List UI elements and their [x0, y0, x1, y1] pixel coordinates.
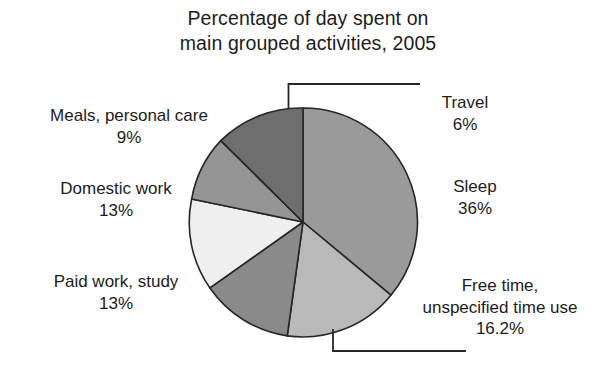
slice-label-paid-work-name: Paid work, study: [20, 271, 212, 293]
slice-label-domestic-work: Domestic work 13%: [26, 178, 206, 221]
slice-label-domestic-work-value: 13%: [26, 200, 206, 222]
slice-label-free-time-value: 16.2%: [388, 318, 612, 340]
slice-label-sleep-value: 36%: [432, 198, 518, 220]
slice-label-paid-work: Paid work, study 13%: [20, 271, 212, 314]
slice-label-free-time: Free time, unspecified time use 16.2%: [388, 275, 612, 340]
slice-label-meals-value: 9%: [24, 127, 234, 149]
slice-label-free-time-name-line-2: unspecified time use: [388, 297, 612, 319]
leader-line-travel: [289, 84, 421, 108]
slice-label-travel: Travel 6%: [413, 92, 517, 135]
slice-label-travel-name: Travel: [413, 92, 517, 114]
slice-label-meals-name: Meals, personal care: [24, 105, 234, 127]
slice-label-sleep-name: Sleep: [432, 176, 518, 198]
slice-label-domestic-work-name: Domestic work: [26, 178, 206, 200]
slice-label-sleep: Sleep 36%: [432, 176, 518, 219]
pie-chart-figure: Percentage of day spent on main grouped …: [0, 0, 616, 389]
slice-label-paid-work-value: 13%: [20, 293, 212, 315]
slice-label-travel-value: 6%: [413, 114, 517, 136]
slice-label-free-time-name-line-1: Free time,: [388, 275, 612, 297]
slice-label-meals: Meals, personal care 9%: [24, 105, 234, 148]
